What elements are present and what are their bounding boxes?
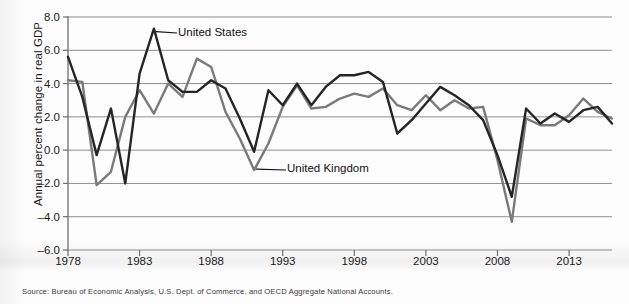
series-label-united-kingdom: United Kingdom [287, 162, 369, 174]
chart-plot-area [0, 0, 629, 304]
leader-line-united-kingdom [256, 169, 286, 170]
source-caption: Source: Bureau of Economic Analysis, U.S… [22, 287, 393, 296]
series-label-united-states: United States [178, 26, 247, 38]
leader-line-united-states [156, 32, 177, 33]
chart-figure: Annual percent change in real GDP 8.06.0… [0, 0, 629, 304]
